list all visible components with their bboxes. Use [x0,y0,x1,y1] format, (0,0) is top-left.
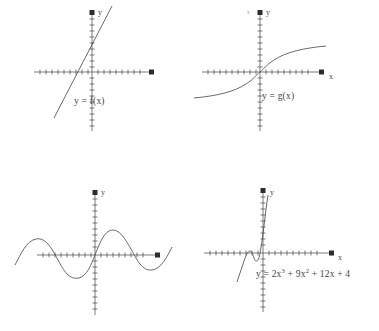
plot-sigmoid-equation-label: y = g(x) [262,91,294,101]
stray-mark: x [247,9,250,15]
y-axis-label: y [270,188,274,197]
plot-sine: y y = sin x [0,165,189,330]
x-axis-label: x [329,72,333,81]
y-axis-arrowhead [93,190,98,195]
y-axis-arrowhead [261,188,266,193]
cubic-eq-lead: y = 2x [256,269,282,279]
sine-curve [15,230,172,278]
plot-sigmoid: y x x y = g(x) [190,0,379,165]
x-axis-arrowhead [329,251,334,256]
figure-sheet: y y = f(x) [0,0,379,331]
plot-linear: y y = f(x) [0,0,189,165]
plot-sigmoid-canvas: y x x [190,0,379,165]
y-axis-arrowhead [258,10,263,15]
x-axis-label: x [338,253,342,262]
cubic-eq-tail: + 12x + 4 [309,269,350,279]
plot-cubic-canvas: y x [190,165,379,330]
plot-linear-canvas: y [0,0,189,165]
plot-linear-equation-label: y = f(x) [74,96,105,106]
plot-cubic-equation-label: y = 2x3 + 9x2 + 12x + 4 [256,269,350,279]
x-axis-arrowhead [155,253,160,258]
y-axis-label: y [266,8,270,17]
x-axis-arrowhead [149,70,154,75]
cubic-eq-mid: + 9x [285,269,306,279]
plot-sine-canvas: y [0,165,189,330]
x-axis-arrowhead [319,70,324,75]
y-axis-arrowhead [90,10,95,15]
y-axis-label: y [101,188,105,197]
y-axis-label: y [98,8,102,17]
plot-cubic: y x y = 2x3 + 9x2 + 12x + 4 [190,165,379,330]
